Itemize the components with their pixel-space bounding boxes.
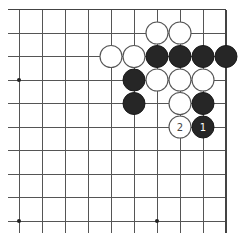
black-stone[interactable]	[123, 69, 145, 91]
white-stone-disc	[169, 69, 191, 91]
black-stone[interactable]	[169, 46, 191, 68]
black-stone-disc	[123, 93, 145, 115]
black-stone-disc	[192, 46, 214, 68]
black-stone[interactable]	[146, 46, 168, 68]
white-stone[interactable]: 2	[169, 116, 191, 138]
white-stone-disc	[192, 69, 214, 91]
white-stone[interactable]	[169, 93, 191, 115]
white-stone-disc	[169, 93, 191, 115]
white-stone-disc	[146, 22, 168, 44]
white-stone[interactable]	[146, 69, 168, 91]
go-board[interactable]: 21	[0, 0, 242, 239]
star-point	[17, 219, 21, 223]
star-point	[155, 219, 159, 223]
black-stone[interactable]	[192, 93, 214, 115]
black-stone[interactable]	[215, 46, 237, 68]
move-number-label: 2	[177, 122, 183, 133]
black-stone[interactable]	[123, 93, 145, 115]
white-stone[interactable]	[100, 46, 122, 68]
black-stone-disc	[192, 93, 214, 115]
white-stone-disc	[123, 46, 145, 68]
white-stone-disc	[169, 22, 191, 44]
black-stone-disc	[123, 69, 145, 91]
white-stone-disc	[100, 46, 122, 68]
black-stone-disc	[146, 46, 168, 68]
move-number-label: 1	[200, 122, 206, 133]
white-stone[interactable]	[169, 22, 191, 44]
star-point	[17, 78, 21, 82]
white-stone[interactable]	[169, 69, 191, 91]
black-stone[interactable]: 1	[192, 116, 214, 138]
black-stone-disc	[215, 46, 237, 68]
white-stone[interactable]	[123, 46, 145, 68]
white-stone[interactable]	[146, 22, 168, 44]
black-stone-disc	[169, 46, 191, 68]
black-stone[interactable]	[192, 46, 214, 68]
white-stone-disc	[146, 69, 168, 91]
white-stone[interactable]	[192, 69, 214, 91]
